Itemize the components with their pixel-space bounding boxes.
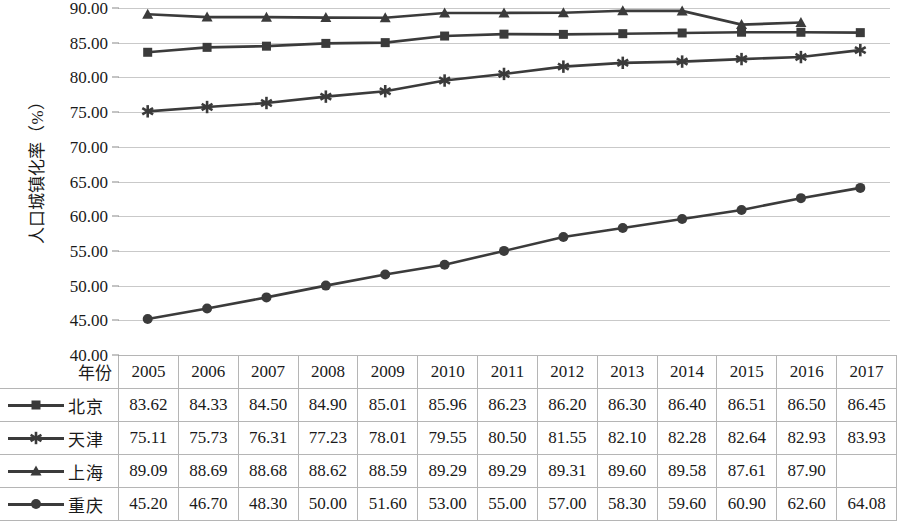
y-tick-label: 75.00	[30, 104, 108, 121]
data-point-circle	[321, 281, 331, 291]
y-tick-mark	[112, 42, 119, 43]
table-header-year: 2014	[657, 356, 717, 389]
data-point-square	[381, 38, 390, 47]
data-point-circle	[440, 260, 450, 270]
data-point-asterisk	[31, 432, 42, 444]
table-cell-value: 84.90	[298, 389, 358, 422]
table-cell-value: 86.23	[478, 389, 538, 422]
table-cell-value: 45.20	[119, 488, 179, 521]
series-上海	[142, 5, 806, 29]
table-cell-value: 82.93	[777, 422, 837, 455]
table-header-year: 2015	[717, 356, 777, 389]
y-axis-tick-labels: 90.0085.0080.0075.0070.0065.0060.0055.00…	[30, 0, 108, 360]
table-header-year: 2012	[537, 356, 597, 389]
table-cell-value: 64.08	[837, 488, 897, 521]
data-point-square	[856, 28, 865, 37]
table-cell-value: 55.00	[478, 488, 538, 521]
table-header-year: 2008	[298, 356, 358, 389]
table-header-year: 2013	[597, 356, 657, 389]
table-cell-value: 75.73	[178, 422, 238, 455]
table-row: 上海89.0988.6988.6888.6288.5989.2989.2989.…	[0, 455, 897, 488]
table-cell-value: 87.90	[777, 455, 837, 488]
table-cell-value: 50.00	[298, 488, 358, 521]
table-cell-value: 77.23	[298, 422, 358, 455]
y-tick-mark	[112, 250, 119, 251]
table-cell-value	[837, 455, 897, 488]
table-cell-value: 81.55	[537, 422, 597, 455]
table-cell-value: 88.68	[238, 455, 298, 488]
table-cell-value: 46.70	[178, 488, 238, 521]
table-cell-value: 53.00	[418, 488, 478, 521]
data-point-circle	[855, 183, 865, 193]
table-cell-value: 76.31	[238, 422, 298, 455]
table-cell-value: 82.28	[657, 422, 717, 455]
y-tick-label: 85.00	[30, 34, 108, 51]
data-point-circle	[202, 304, 212, 314]
y-tick-mark	[112, 216, 119, 217]
y-tick-mark	[112, 285, 119, 286]
legend-marker-triangle-icon	[8, 463, 64, 479]
data-point-circle	[737, 205, 747, 215]
y-tick-mark	[112, 8, 119, 9]
series-重庆	[143, 183, 866, 324]
legend-marker-square-icon	[8, 397, 64, 413]
data-point-square	[618, 29, 627, 38]
y-tick-label: 60.00	[30, 208, 108, 225]
table-header-year: 2009	[358, 356, 418, 389]
data-point-circle	[380, 269, 390, 279]
table-cell-value: 62.60	[777, 488, 837, 521]
table-cell-value: 80.50	[478, 422, 538, 455]
legend-entry-上海[interactable]: 上海	[0, 455, 119, 488]
table-cell-value: 89.29	[478, 455, 538, 488]
table-cell-value: 85.01	[358, 389, 418, 422]
y-tick-mark	[112, 77, 119, 78]
legend-entry-北京[interactable]: 北京	[0, 389, 119, 422]
table-cell-value: 57.00	[537, 488, 597, 521]
table-cell-value: 86.20	[537, 389, 597, 422]
data-point-circle	[796, 193, 806, 203]
table-row: 北京83.6284.3384.5084.9085.0185.9686.2386.…	[0, 389, 897, 422]
data-point-circle	[558, 232, 568, 242]
legend-marker-asterisk-icon	[8, 430, 64, 446]
series-天津	[142, 44, 865, 118]
data-point-circle	[677, 214, 687, 224]
data-point-square	[32, 401, 41, 410]
y-tick-label: 45.00	[30, 312, 108, 329]
table-cell-value: 79.55	[418, 422, 478, 455]
legend-marker-circle-icon	[8, 496, 64, 512]
legend-entry-天津[interactable]: 天津	[0, 422, 119, 455]
table-cell-value: 89.09	[119, 455, 179, 488]
table-cell-value: 89.60	[597, 455, 657, 488]
table-cell-value: 82.10	[597, 422, 657, 455]
data-point-circle	[618, 223, 628, 233]
table-row: 天津75.1175.7376.3177.2378.0179.5580.5081.…	[0, 422, 897, 455]
y-tick-mark	[112, 320, 119, 321]
data-point-square	[203, 43, 212, 52]
legend-label: 上海	[68, 459, 104, 484]
table-cell-value: 83.93	[837, 422, 897, 455]
table-cell-value: 59.60	[657, 488, 717, 521]
data-point-circle	[31, 499, 41, 509]
y-tick-label: 70.00	[30, 138, 108, 155]
data-table: 年份 2005200620072008200920102011201220132…	[0, 355, 897, 521]
table-header-row: 年份 2005200620072008200920102011201220132…	[0, 356, 897, 389]
table-cell-value: 83.62	[119, 389, 179, 422]
legend-label: 北京	[68, 393, 104, 418]
data-table-container: 年份 2005200620072008200920102011201220132…	[0, 355, 897, 521]
table-cell-value: 86.51	[717, 389, 777, 422]
y-tick-label: 80.00	[30, 69, 108, 86]
data-point-square	[678, 28, 687, 37]
data-point-circle	[261, 292, 271, 302]
table-cell-value: 88.62	[298, 455, 358, 488]
plot-area	[118, 8, 890, 355]
data-point-square	[321, 39, 330, 48]
table-cell-value: 82.64	[717, 422, 777, 455]
table-cell-value: 60.90	[717, 488, 777, 521]
table-cell-value: 88.59	[358, 455, 418, 488]
legend-entry-重庆[interactable]: 重庆	[0, 488, 119, 521]
data-point-triangle	[31, 466, 42, 476]
table-cell-value: 89.31	[537, 455, 597, 488]
table-cell-value: 89.58	[657, 455, 717, 488]
y-tick-mark	[112, 146, 119, 147]
